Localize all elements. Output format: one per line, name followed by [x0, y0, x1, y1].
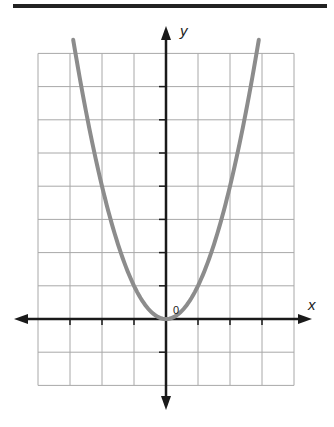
- x-axis-label: x: [308, 296, 316, 313]
- y-axis-label: y: [180, 22, 188, 39]
- origin-label: 0: [173, 304, 179, 316]
- parabola-graph: [0, 0, 334, 427]
